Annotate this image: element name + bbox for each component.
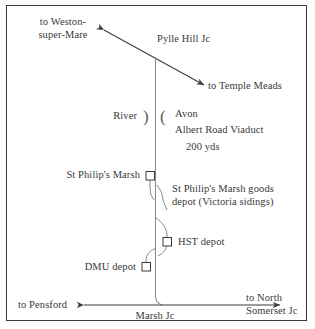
box-hst-depot (163, 238, 172, 247)
label-st-philips-marsh-goods-depot: St Philip's Marsh goods depot (Victoria … (172, 183, 312, 208)
label-avon: Avon (175, 108, 198, 121)
label-to-north-somerset-jc: to North Somerset Jc (246, 292, 312, 317)
brace-right: ( (160, 108, 166, 125)
label-to-pensford: to Pensford (18, 299, 67, 312)
brace-left: ) (143, 108, 149, 125)
label-albert-road-viaduct: Albert Road Viaduct (175, 124, 264, 137)
siding-st-philips-marsh (150, 180, 154, 200)
label-to-weston-super-mare: to Weston- super-Mare (16, 16, 110, 41)
box-st-philips-marsh (146, 172, 155, 181)
label-dmu-depot: DMU depot (50, 261, 136, 274)
label-viaduct-length: 200 yds (186, 141, 220, 154)
box-dmu-depot (142, 263, 151, 272)
label-hst-depot: HST depot (178, 236, 225, 249)
label-river: River (80, 110, 137, 123)
railway-diagram: to Weston- super-Mare Pylle Hill Jc to T… (0, 0, 315, 329)
siding-st-philips-goods-depot (157, 185, 167, 210)
label-pylle-hill-jc: Pylle Hill Jc (157, 33, 210, 46)
label-to-temple-meads: to Temple Meads (208, 80, 282, 93)
label-marsh-jc: Marsh Jc (110, 310, 200, 323)
diagram-lines (0, 0, 315, 329)
main-line-pylle-hill-to-marsh (156, 57, 163, 305)
label-st-philips-marsh: St Philip's Marsh (38, 169, 140, 182)
